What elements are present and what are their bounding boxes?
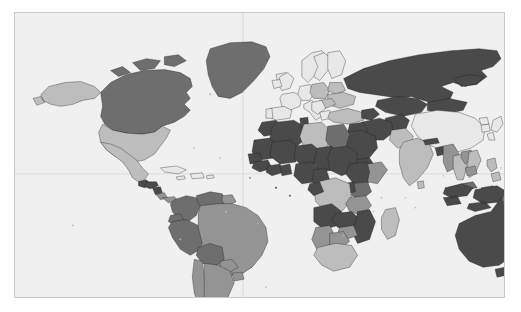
- island-speck: [219, 157, 221, 159]
- island-speck: [257, 223, 259, 225]
- island-speck: [209, 93, 211, 95]
- island-speck: [381, 197, 383, 199]
- country-north-korea: [479, 117, 489, 125]
- country-ghana: [280, 164, 292, 176]
- island-speck: [343, 235, 345, 237]
- island-speck: [500, 167, 502, 169]
- island-speck: [265, 286, 267, 288]
- world-map-figure: [0, 0, 521, 312]
- country-hispaniola: [190, 173, 204, 179]
- island-speck: [180, 239, 182, 241]
- country-sri-lanka: [417, 181, 424, 189]
- island-speck: [480, 217, 482, 219]
- island-speck: [275, 187, 277, 189]
- country-cambodia: [465, 166, 477, 176]
- island-speck: [72, 225, 74, 227]
- country-portugal: [266, 108, 273, 118]
- country-south-korea: [481, 124, 490, 132]
- map-plot-area: [14, 12, 505, 298]
- island-speck: [415, 207, 417, 209]
- island-speck: [193, 147, 195, 149]
- island-speck: [289, 195, 291, 197]
- island-speck: [373, 211, 375, 213]
- island-speck: [225, 211, 227, 213]
- island-speck: [442, 175, 444, 177]
- island-speck: [249, 177, 251, 179]
- island-speck: [405, 197, 407, 199]
- world-map-canvas: [15, 13, 504, 297]
